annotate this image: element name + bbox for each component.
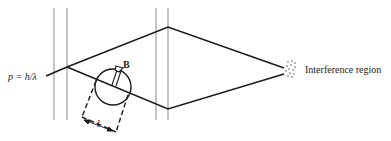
interference-region-label: Interference region: [305, 64, 381, 75]
beam-paths: [46, 27, 284, 109]
momentum-label: p = h/λ: [7, 71, 38, 82]
diagram-canvas: B l p = h/λ Interference region: [0, 0, 391, 141]
length-label: l: [97, 118, 100, 129]
upper-path: [67, 27, 284, 68]
interference-region-icon: [285, 60, 295, 77]
screens: [54, 8, 168, 120]
lower-path: [67, 67, 284, 109]
field-label: B: [123, 59, 130, 70]
solenoid-circle: [95, 69, 131, 105]
aharonov-bohm-diagram: B l p = h/λ Interference region: [0, 0, 391, 141]
incoming-beam: [46, 67, 67, 76]
